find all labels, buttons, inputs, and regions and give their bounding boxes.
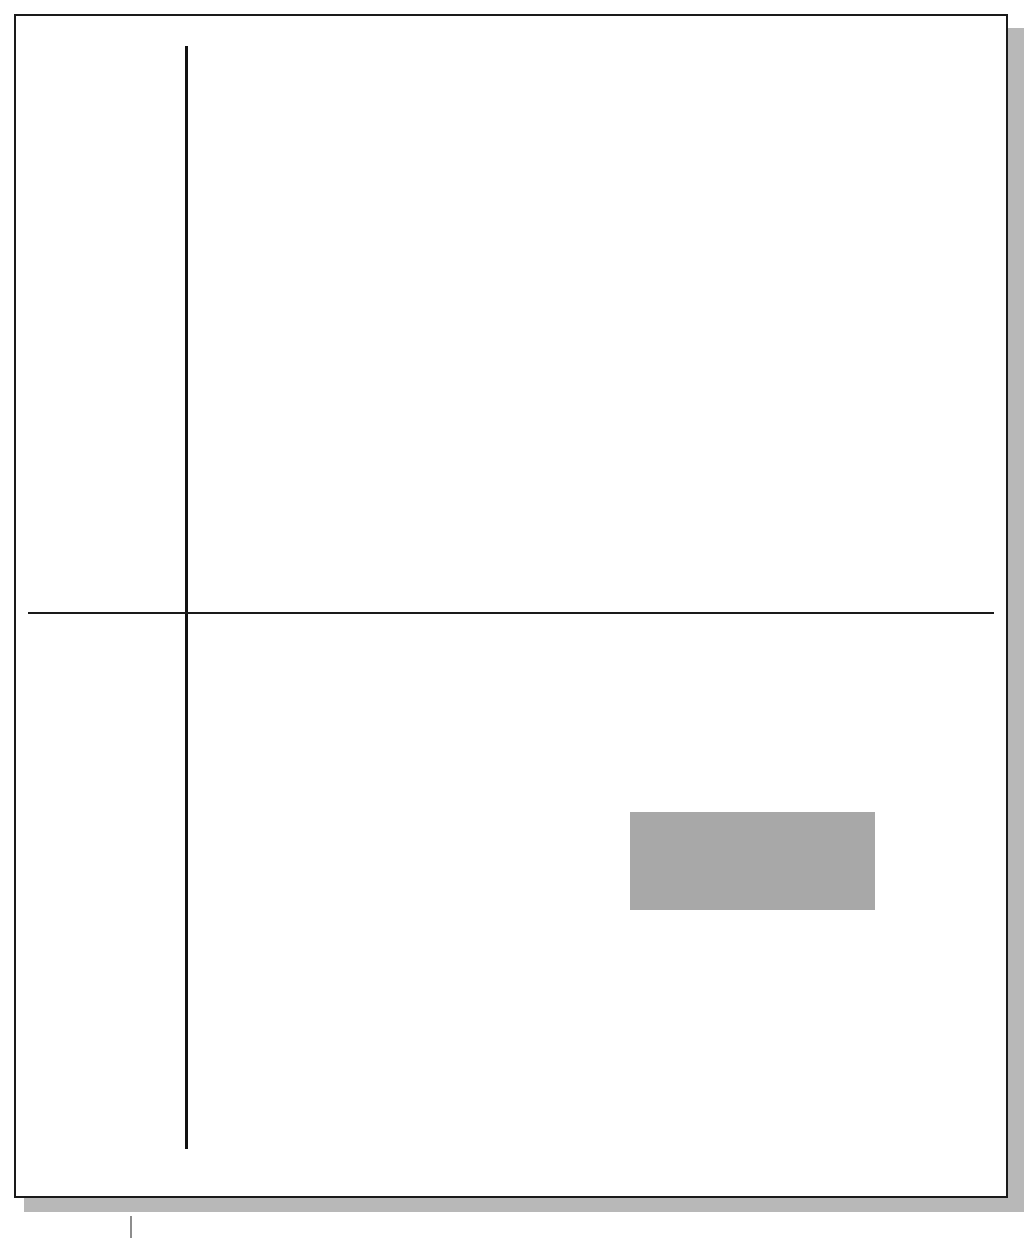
y-axis-line [185, 46, 188, 1149]
inset-example-bar [630, 812, 875, 910]
axis-stub-mark [130, 1216, 132, 1238]
figure-page [0, 0, 1034, 1257]
plot-area [0, 0, 1034, 1257]
group-divider-line [28, 612, 994, 614]
